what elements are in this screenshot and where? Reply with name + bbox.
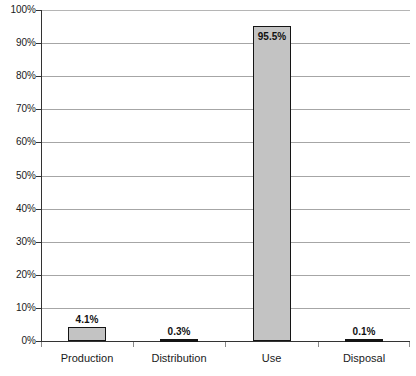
y-tick-label-40: 40%: [0, 204, 36, 214]
x-tick-mark-4: [409, 342, 410, 347]
y-tick-mark-80: [36, 76, 41, 77]
x-tick-mark-3: [318, 342, 319, 347]
bar-distribution[interactable]: [160, 339, 198, 342]
y-tick-label-90: 90%: [0, 38, 36, 48]
bar-chart: 100% 90% 80% 70% 60% 50% 40% 30% 20% 10%…: [0, 0, 416, 376]
bar-use[interactable]: [253, 26, 291, 341]
y-tick-mark-70: [36, 109, 41, 110]
x-category-label-use: Use: [225, 352, 318, 365]
bar-value-label-use: 95.5%: [247, 31, 297, 42]
y-tick-label-10: 10%: [0, 303, 36, 313]
bar-disposal[interactable]: [345, 339, 383, 342]
y-tick-label-0: 0%: [0, 336, 36, 346]
y-tick-label-80: 80%: [0, 71, 36, 81]
gridline-40: [41, 209, 410, 210]
y-axis-line: [41, 10, 42, 342]
y-tick-label-20: 20%: [0, 270, 36, 280]
gridline-70: [41, 109, 410, 110]
y-tick-label-30: 30%: [0, 237, 36, 247]
y-tick-label-50: 50%: [0, 171, 36, 181]
gridline-100: [41, 10, 410, 11]
gridline-10: [41, 308, 410, 309]
gridline-50: [41, 176, 410, 177]
gridline-90: [41, 43, 410, 44]
gridline-20: [41, 275, 410, 276]
x-category-label-distribution: Distribution: [133, 352, 225, 365]
bar-production[interactable]: [68, 327, 106, 341]
y-tick-mark-40: [36, 209, 41, 210]
x-tick-mark-2: [225, 342, 226, 347]
gridline-60: [41, 142, 410, 143]
gridline-30: [41, 242, 410, 243]
gridline-80: [41, 76, 410, 77]
plot-area: [41, 10, 410, 341]
y-tick-label-70: 70%: [0, 104, 36, 114]
y-tick-mark-30: [36, 242, 41, 243]
y-tick-label-100: 100%: [0, 5, 36, 15]
y-tick-mark-90: [36, 43, 41, 44]
x-category-label-disposal: Disposal: [318, 352, 410, 365]
y-tick-mark-60: [36, 142, 41, 143]
y-tick-mark-20: [36, 275, 41, 276]
y-tick-mark-100: [36, 10, 41, 11]
x-tick-mark-0: [41, 342, 42, 347]
bar-value-label-distribution: 0.3%: [154, 326, 204, 337]
y-tick-mark-50: [36, 176, 41, 177]
bar-value-label-disposal: 0.1%: [339, 326, 389, 337]
bar-value-label-production: 4.1%: [62, 314, 112, 325]
y-tick-label-60: 60%: [0, 137, 36, 147]
y-tick-mark-10: [36, 308, 41, 309]
x-tick-mark-1: [133, 342, 134, 347]
x-category-label-production: Production: [41, 352, 133, 365]
